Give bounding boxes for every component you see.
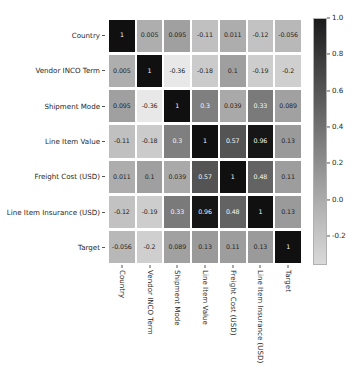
- heatmap-cell: 0.1: [136, 159, 164, 194]
- x-axis-tick-mark: [260, 265, 261, 268]
- heatmap-cell-value-r2-c4: 0.039: [220, 90, 246, 122]
- heatmap-cell-value-r4-c6: 0.11: [275, 161, 301, 193]
- y-axis-label-3: Line Item Value: [0, 124, 105, 159]
- heatmap-cell-value-r2-c6: 0.089: [275, 90, 301, 122]
- correlation-heatmap-figure: CountryVendor INCO TermShipment ModeLine…: [0, 0, 356, 370]
- heatmap-cell: 0.039: [219, 89, 247, 124]
- heatmap-cell: -0.18: [136, 124, 164, 159]
- heatmap-cell: 0.3: [163, 124, 191, 159]
- colorbar-tick-mark: [327, 163, 330, 164]
- heatmap-cell-value-r4-c5: 0.48: [248, 161, 274, 193]
- heatmap-cell-value-r2-c2: 1: [164, 90, 190, 122]
- heatmap-cell: -0.11: [108, 124, 136, 159]
- colorbar-tick-mark: [327, 54, 330, 55]
- y-axis-tick-mark: [102, 106, 105, 107]
- y-axis-tick-mark: [102, 35, 105, 36]
- colorbar-tick-label: 0.2: [332, 160, 343, 167]
- x-axis-label-6: Target: [285, 270, 292, 292]
- colorbar-tick-mark: [327, 199, 330, 200]
- heatmap-cell: 0.11: [274, 159, 302, 194]
- x-axis-tick-mark: [121, 265, 122, 268]
- colorbar-tick-mark: [327, 126, 330, 127]
- x-axis-label-3: Line Item Value: [201, 270, 208, 325]
- heatmap-cell: 0.33: [163, 194, 191, 229]
- heatmap-cell: 0.13: [274, 194, 302, 229]
- x-axis-tick-mark: [232, 265, 233, 268]
- heatmap-cell-value-r3-c2: 0.3: [164, 125, 190, 157]
- heatmap-cell-value-r3-c6: 0.13: [275, 125, 301, 157]
- heatmap-cell-value-r5-c2: 0.33: [164, 196, 190, 228]
- heatmap-cell-value-r1-c5: -0.19: [248, 55, 274, 87]
- heatmap-cell-value-r0-c3: -0.11: [192, 20, 218, 52]
- heatmap-cell-value-r5-c1: -0.19: [137, 196, 163, 228]
- x-axis-label-cell-2: Shipment Mode: [163, 265, 191, 365]
- heatmap-grid: 10.0050.095-0.110.011-0.12-0.0560.0051-0…: [108, 18, 302, 265]
- heatmap-cell: -0.11: [191, 18, 219, 53]
- heatmap-cell: -0.2: [274, 53, 302, 88]
- x-axis-label-1: Vendor INCO Term: [146, 270, 153, 335]
- colorbar-tick-label: 0.6: [332, 87, 343, 94]
- heatmap-cell-value-r3-c4: 0.57: [220, 125, 246, 157]
- x-axis-tick-mark: [177, 265, 178, 268]
- x-axis-label-cell-0: Country: [108, 265, 136, 365]
- heatmap-cell: 0.095: [108, 89, 136, 124]
- heatmap-cell-value-r1-c6: -0.2: [275, 55, 301, 87]
- heatmap-cell: 0.011: [219, 18, 247, 53]
- heatmap-cell: 0.089: [163, 230, 191, 265]
- heatmap-cell: 1: [219, 159, 247, 194]
- heatmap-cell-value-r4-c0: 0.011: [109, 161, 135, 193]
- y-axis-label-6: Target: [0, 230, 105, 265]
- heatmap-cell-value-r1-c2: -0.36: [164, 55, 190, 87]
- colorbar-tick-label: -0.2: [332, 232, 346, 239]
- heatmap-cell-value-r6-c5: 0.13: [248, 231, 274, 263]
- colorbar-tick-4: 0.2: [327, 160, 343, 167]
- colorbar-tick-labels: 1.00.80.60.40.20.0-0.2: [327, 18, 356, 265]
- colorbar-tick-mark: [327, 90, 330, 91]
- x-axis-label-cell-5: Line Item Insurance (USD): [247, 265, 275, 365]
- heatmap-cell: 1: [136, 53, 164, 88]
- heatmap-cell: -0.19: [136, 194, 164, 229]
- colorbar-tick-2: 0.6: [327, 87, 343, 94]
- colorbar-tick-5: 0.0: [327, 196, 343, 203]
- x-axis-label-cell-1: Vendor INCO Term: [136, 265, 164, 365]
- y-axis-tick-mark: [102, 141, 105, 142]
- heatmap-cell-value-r0-c4: 0.011: [220, 20, 246, 52]
- heatmap-cell-value-r4-c3: 0.57: [192, 161, 218, 193]
- heatmap-cell-value-r0-c5: -0.12: [248, 20, 274, 52]
- colorbar-tick-6: -0.2: [327, 232, 346, 239]
- heatmap-cell-value-r3-c0: -0.11: [109, 125, 135, 157]
- colorbar-gradient: [313, 18, 327, 265]
- heatmap-cell-value-r4-c2: 0.039: [164, 161, 190, 193]
- heatmap-cell-value-r3-c1: -0.18: [137, 125, 163, 157]
- heatmap-cell: -0.12: [108, 194, 136, 229]
- heatmap-cell-value-r2-c3: 0.3: [192, 90, 218, 122]
- heatmap-cell: 1: [274, 230, 302, 265]
- heatmap-cell: 1: [191, 124, 219, 159]
- y-axis-label-2: Shipment Mode: [0, 89, 105, 124]
- heatmap-cell: -0.19: [247, 53, 275, 88]
- heatmap-cell: 1: [163, 89, 191, 124]
- heatmap-cell: 0.089: [274, 89, 302, 124]
- heatmap-cell-value-r4-c4: 1: [220, 161, 246, 193]
- colorbar-tick-mark: [327, 235, 330, 236]
- heatmap-cell-value-r3-c5: 0.96: [248, 125, 274, 157]
- heatmap-cell-value-r6-c3: 0.13: [192, 231, 218, 263]
- y-axis-label-1: Vendor INCO Term: [0, 53, 105, 88]
- heatmap-cell-value-r6-c1: -0.2: [137, 231, 163, 263]
- heatmap-cell: 0.1: [219, 53, 247, 88]
- heatmap-cell: 1: [108, 18, 136, 53]
- heatmap-cell-value-r6-c2: 0.089: [164, 231, 190, 263]
- x-axis-label-cell-3: Line Item Value: [191, 265, 219, 365]
- y-axis-tick-labels: CountryVendor INCO TermShipment ModeLine…: [0, 18, 105, 265]
- y-axis-label-4: Freight Cost (USD): [0, 159, 105, 194]
- x-axis-label-cell-4: Freight Cost (USD): [219, 265, 247, 365]
- y-axis-label-0: Country: [0, 18, 105, 53]
- heatmap-cell: 0.13: [191, 230, 219, 265]
- heatmap-cell-value-r3-c3: 1: [192, 125, 218, 157]
- heatmap-cell-value-r0-c2: 0.095: [164, 20, 190, 52]
- heatmap-cell: 0.96: [247, 124, 275, 159]
- x-axis-tick-labels: CountryVendor INCO TermShipment ModeLine…: [108, 265, 302, 365]
- heatmap-cell: -0.2: [136, 230, 164, 265]
- heatmap-cell-value-r5-c5: 1: [248, 196, 274, 228]
- heatmap-cell-value-r1-c0: 0.005: [109, 55, 135, 87]
